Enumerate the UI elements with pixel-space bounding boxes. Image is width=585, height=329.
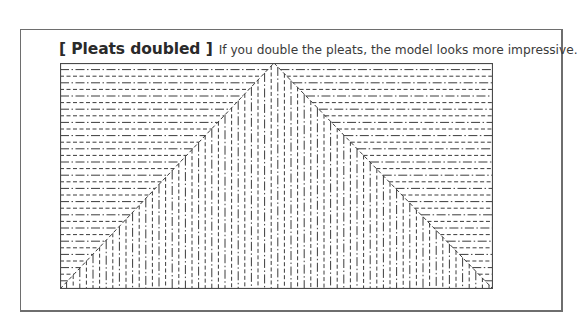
figure-caption: [ Pleats doubled ]If you double the plea… xyxy=(59,39,578,60)
crease-pattern-diagram xyxy=(60,63,493,289)
crease-pattern-svg xyxy=(60,63,493,289)
paper-edge xyxy=(61,64,493,289)
diagonal-fold-left xyxy=(60,63,274,289)
caption-title: [ Pleats doubled ] xyxy=(59,40,213,58)
caption-text: If you double the pleats, the model look… xyxy=(219,43,578,57)
figure-frame: [ Pleats doubled ]If you double the plea… xyxy=(20,29,563,312)
